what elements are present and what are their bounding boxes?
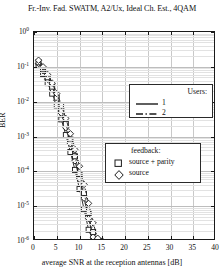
diamond-marker-icon: [114, 170, 124, 180]
x-tick-label: 0: [21, 243, 45, 252]
users-legend-title: Users:: [188, 87, 207, 96]
y-tick-label: 10-5: [2, 200, 29, 210]
grid-line-minor: [34, 126, 214, 127]
y-tick-label: 10-3: [2, 131, 29, 141]
x-tick-mark: [148, 236, 149, 239]
grid-lines: [34, 32, 214, 239]
x-tick-mark: [125, 236, 126, 239]
grid-line-minor: [34, 50, 214, 51]
grid-line-minor: [34, 40, 214, 41]
grid-line-minor: [34, 68, 214, 69]
x-tick-mark: [193, 32, 194, 35]
plot-area: [33, 31, 215, 240]
grid-line-minor: [34, 220, 214, 221]
x-tick-mark: [102, 236, 103, 239]
x-tick-label: 10: [67, 243, 91, 252]
y-tick-mark: [211, 171, 214, 172]
users-legend-sample-1: [136, 102, 158, 106]
grid-line-minor: [34, 75, 214, 76]
y-tick-mark: [211, 137, 214, 138]
x-tick-label: 20: [112, 243, 136, 252]
feedback-legend-title: feedback:: [131, 146, 161, 155]
x-tick-mark: [125, 32, 126, 35]
grid-line-minor: [34, 138, 214, 139]
grid-line-minor: [34, 196, 214, 197]
y-tick-label: 10-1: [2, 61, 29, 71]
x-tick-label: 35: [180, 243, 204, 252]
grid-line-minor: [34, 81, 214, 82]
feedback-legend-label-1: source + parity: [129, 157, 175, 166]
y-tick-label: 10-4: [2, 165, 29, 175]
y-tick-label: 10-2: [2, 96, 29, 106]
users-legend-label-2: 2: [162, 108, 166, 117]
grid-line-minor: [34, 46, 214, 47]
chart-figure: Fr.-Inv. Fad. SWATM, A2/Ux, Ideal Ch. Es…: [0, 0, 224, 276]
grid-line-minor: [34, 34, 214, 35]
square-marker-icon: [114, 159, 123, 168]
x-tick-mark: [193, 236, 194, 239]
users-legend-sample-2: [136, 112, 158, 116]
x-axis-title: average SNR at the reception antennas [d…: [0, 258, 224, 267]
grid-line-minor: [34, 77, 214, 78]
grid-line-minor: [34, 214, 214, 215]
y-tick-mark: [34, 137, 37, 138]
x-tick-mark: [171, 32, 172, 35]
y-tick-label: 100: [2, 26, 29, 36]
x-tick-mark: [148, 32, 149, 35]
y-axis-title: BER: [0, 112, 7, 128]
x-tick-label: 5: [44, 243, 68, 252]
y-tick-mark: [34, 206, 37, 207]
grid-line-minor: [34, 217, 214, 218]
feedback-legend-label-2: source: [129, 168, 149, 177]
chart-title: Fr.-Inv. Fad. SWATM, A2/Ux, Ideal Ch. Es…: [0, 4, 224, 13]
x-tick-mark: [80, 236, 81, 239]
grid-line-minor: [34, 37, 214, 38]
grid-line-minor: [34, 185, 214, 186]
users-legend: Users: 1 2: [129, 84, 213, 118]
y-tick-mark: [211, 67, 214, 68]
x-tick-mark: [57, 32, 58, 35]
y-tick-mark: [34, 102, 37, 103]
y-tick-mark: [211, 32, 214, 33]
x-tick-mark: [80, 32, 81, 35]
grid-line-minor: [34, 212, 214, 213]
x-tick-label: 15: [89, 243, 113, 252]
y-tick-mark: [34, 32, 37, 33]
grid-line-minor: [34, 35, 214, 36]
grid-line-minor: [34, 120, 214, 121]
y-tick-mark: [34, 67, 37, 68]
x-tick-mark: [57, 236, 58, 239]
grid-line-minor: [34, 72, 214, 73]
grid-line-minor: [34, 208, 214, 209]
x-tick-mark: [102, 32, 103, 35]
x-tick-mark: [34, 236, 35, 239]
feedback-legend: feedback: source + parity source: [105, 143, 201, 183]
users-legend-label-1: 1: [162, 98, 166, 107]
grid-line-minor: [34, 56, 214, 57]
x-tick-label: 25: [135, 243, 159, 252]
y-tick-mark: [211, 206, 214, 207]
grid-line-minor: [34, 42, 214, 43]
grid-line-minor: [34, 140, 214, 141]
x-tick-label: 30: [158, 243, 182, 252]
grid-line-minor: [34, 231, 214, 232]
x-tick-mark: [171, 236, 172, 239]
y-tick-mark: [34, 171, 37, 172]
grid-line-minor: [34, 70, 214, 71]
grid-line-minor: [34, 224, 214, 225]
grid-line-minor: [34, 210, 214, 211]
grid-line-minor: [34, 190, 214, 191]
x-tick-label: 40: [203, 243, 224, 252]
